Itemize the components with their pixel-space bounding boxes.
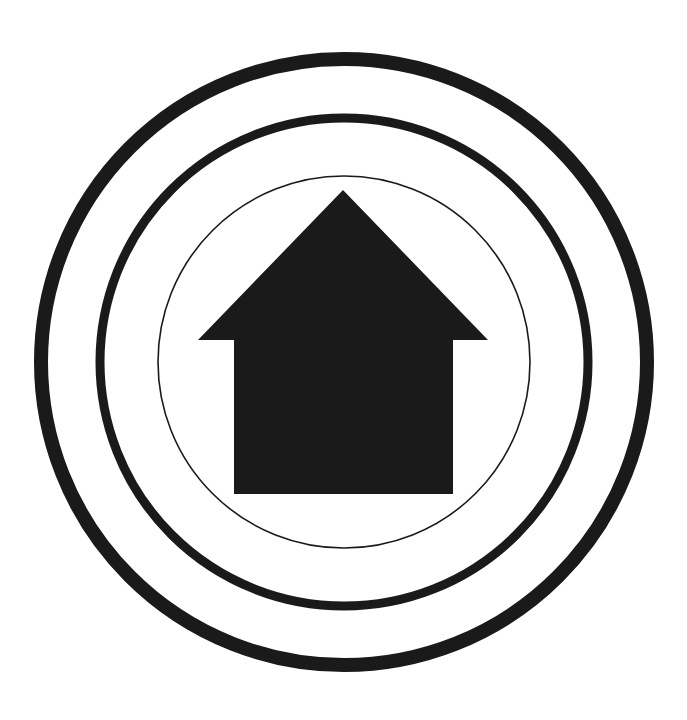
home-icon [198,190,488,494]
icon-canvas: Home icon surrounded by three concentric… [0,0,687,720]
home-rings-graphic [0,0,687,720]
